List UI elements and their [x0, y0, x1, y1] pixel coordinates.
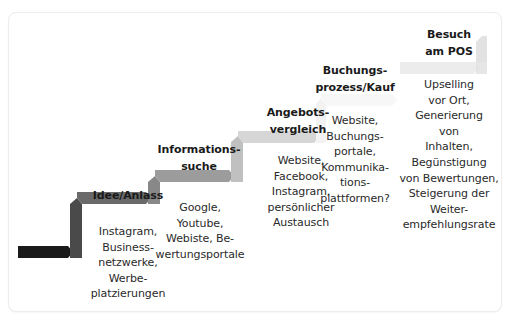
step-title-buchungsprozess: Buchungs- prozess/Kauf	[315, 62, 394, 96]
riser-1	[70, 198, 82, 258]
step-body-besuch-pos: Upselling vor Ort, Generierung von Inhal…	[399, 77, 498, 233]
step-body-informationssuche: Google, Youtube, Webiste, Be- wertungspo…	[156, 200, 245, 262]
step-body-buchungsprozess: Website, Buchungs- portale, Kommunika- t…	[320, 113, 389, 207]
step-body-idee: Instagram, Business- netzwerke, Werbe- p…	[91, 224, 166, 302]
step-title-idee: Idee/Anlass	[93, 187, 163, 204]
step-title-besuch-pos: Besuch am POS	[425, 26, 472, 60]
step-title-informationssuche: Informations- suche	[158, 141, 241, 175]
